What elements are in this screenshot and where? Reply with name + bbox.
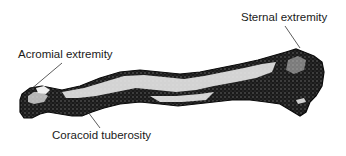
clavicle-diagram: Acromial extremity Sternal extremity Cor… [0,0,346,156]
leader-line-acromial [30,63,62,90]
label-coracoid-tuberosity: Coracoid tuberosity [52,130,151,142]
leader-line-coracoid [88,112,100,128]
leader-line-sternal [285,26,300,48]
label-sternal-extremity: Sternal extremity [241,12,327,24]
label-acromial-extremity: Acromial extremity [18,49,113,61]
